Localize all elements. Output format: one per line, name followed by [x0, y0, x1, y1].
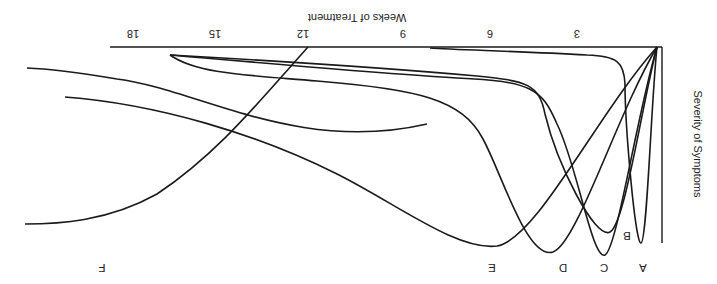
x-tick-12: 12: [297, 28, 309, 40]
x-tick-18: 18: [127, 28, 139, 40]
y-axis-title: Severity of Symptoms: [692, 91, 704, 198]
curve-d: [170, 47, 657, 253]
curve-label-a: A: [639, 262, 647, 274]
curve-e-tail: [27, 68, 427, 132]
x-axis-title: Weeks of Treatment: [308, 12, 406, 24]
curve-f: [25, 47, 308, 224]
curve-label-f: F: [98, 262, 105, 274]
x-tick-3: 3: [574, 28, 580, 40]
curve-c: [170, 47, 657, 255]
x-tick-6: 6: [487, 28, 493, 40]
curve-e: [65, 47, 657, 246]
curve-a: [430, 47, 657, 243]
curve-label-e: E: [488, 262, 496, 274]
curve-label-b: B: [623, 230, 631, 242]
curve-label-d: D: [559, 262, 567, 274]
x-tick-9: 9: [400, 28, 406, 40]
severity-chart: 3 6 9 12 15 18 Weeks of Treatment Severi…: [0, 0, 717, 284]
curve-label-c: C: [600, 262, 608, 274]
x-tick-15: 15: [209, 28, 221, 40]
